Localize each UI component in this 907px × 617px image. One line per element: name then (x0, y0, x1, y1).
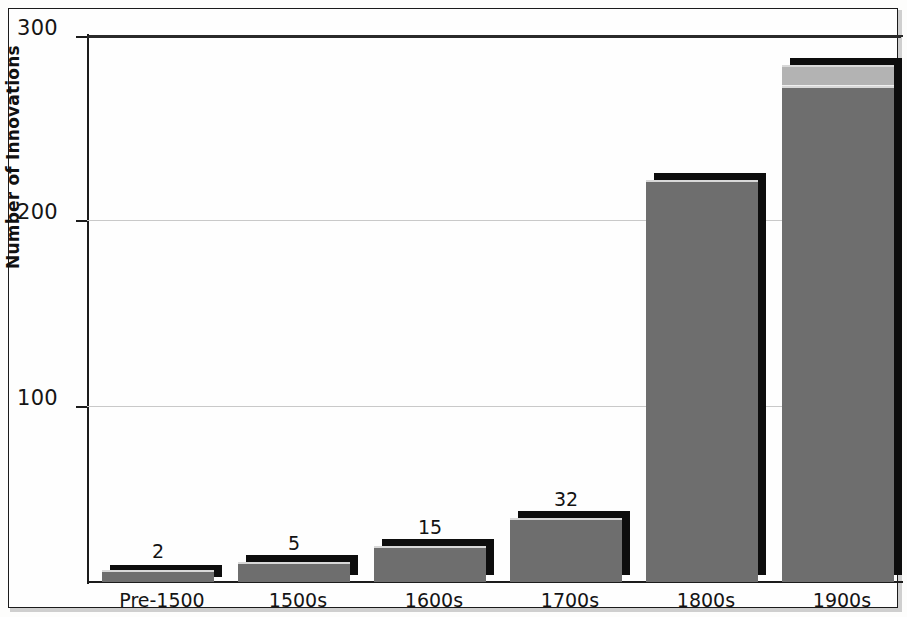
bar-value-pre-1500: 2 (102, 540, 214, 562)
y-tick-mark-100 (76, 406, 87, 408)
x-tick-label-1500s: 1500s (238, 589, 358, 611)
bar-pre-1500[interactable]: 2 (102, 570, 214, 582)
bar-1600s[interactable]: 15 (374, 546, 486, 582)
bar-body-pre-1500 (102, 570, 214, 582)
bar-body-1700s (510, 518, 622, 582)
bar-body-1500s (238, 562, 350, 582)
gridline-300 (87, 36, 901, 38)
chart-frame: 300 200 100 Number of Innovations 2 (8, 8, 898, 608)
bar-estimate-cap-1900s (782, 65, 894, 86)
y-tick-label-200: 200 (17, 200, 79, 224)
y-tick-label-100: 100 (17, 386, 79, 410)
bar-1800s[interactable]: 217 (646, 180, 758, 582)
bar-value-1600s: 15 (374, 516, 486, 538)
gridline-100 (87, 406, 901, 407)
gridline-200 (87, 220, 901, 221)
bar-body-1800s (646, 180, 758, 582)
bar-1900s[interactable]: 268 (to 1997) 279 (est.) (782, 65, 894, 582)
bar-value-1500s: 5 (238, 532, 350, 554)
x-tick-label-1600s: 1600s (374, 589, 494, 611)
bar-1500s[interactable]: 5 (238, 562, 350, 582)
chart-screenshot: 300 200 100 Number of Innovations 2 (0, 0, 907, 617)
bar-value-1700s: 32 (510, 488, 622, 510)
x-tick-label-1800s: 1800s (646, 589, 766, 611)
x-tick-label-pre-1500: Pre-1500 (102, 589, 222, 611)
bar-body-1900s (782, 86, 894, 582)
x-axis-label-group: Pre-1500 1500s 1600s 1700s 1800s 1900s (87, 589, 903, 617)
bar-1700s[interactable]: 32 (510, 518, 622, 582)
x-tick-label-1700s: 1700s (510, 589, 630, 611)
y-axis-title: Number of Innovations (3, 9, 23, 269)
y-tick-label-300: 300 (17, 16, 79, 40)
plot-area: 2 5 15 32 (87, 36, 901, 582)
y-tick-mark-300 (76, 36, 87, 38)
bar-body-1600s (374, 546, 486, 582)
y-tick-mark-200 (76, 220, 87, 222)
x-tick-label-1900s: 1900s (782, 589, 902, 611)
